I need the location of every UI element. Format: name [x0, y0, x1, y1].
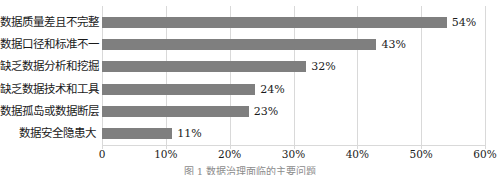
bar: [102, 61, 306, 72]
x-tick-label: 30%: [282, 148, 305, 160]
bar: [102, 106, 249, 117]
bar-row: 数据质量差且不完整54%: [0, 16, 500, 30]
category-label: 数据安全隐患大: [0, 125, 96, 142]
x-tick-label: 60%: [473, 148, 496, 160]
x-tick-label: 20%: [218, 148, 241, 160]
x-tick-label: 10%: [154, 148, 177, 160]
bar: [102, 39, 376, 50]
bar-value-label: 23%: [254, 103, 278, 120]
category-label: 缺乏数据分析和挖掘: [0, 58, 96, 75]
bar-value-label: 24%: [260, 81, 284, 98]
x-tick-label: 0: [99, 148, 106, 160]
bar-value-label: 11%: [177, 125, 201, 142]
bar: [102, 17, 447, 28]
category-label: 数据质量差且不完整: [0, 14, 96, 31]
category-label: 缺乏数据技术和工具: [0, 81, 96, 98]
figure-container: 010%20%30%40%50%60% 数据质量差且不完整54%数据口径和标准不…: [0, 0, 500, 175]
bar-row: 缺乏数据技术和工具24%: [0, 83, 500, 97]
bar-value-label: 43%: [381, 36, 405, 53]
bar: [102, 84, 255, 95]
x-tick-label: 40%: [346, 148, 369, 160]
figure-caption: 图 1 数据治理面临的主要问题: [0, 165, 500, 175]
top-clipped-text: [6, 0, 206, 4]
bar-row: 数据孤岛或数据断层23%: [0, 105, 500, 119]
bar-row: 数据安全隐患大11%: [0, 127, 500, 141]
bar: [102, 128, 172, 139]
bar-value-label: 54%: [452, 14, 476, 31]
category-label: 数据口径和标准不一: [0, 36, 96, 53]
category-label: 数据孤岛或数据断层: [0, 103, 96, 120]
x-tick-label: 50%: [409, 148, 432, 160]
bar-value-label: 32%: [311, 58, 335, 75]
bar-row: 数据口径和标准不一43%: [0, 38, 500, 52]
bar-row: 缺乏数据分析和挖掘32%: [0, 60, 500, 74]
